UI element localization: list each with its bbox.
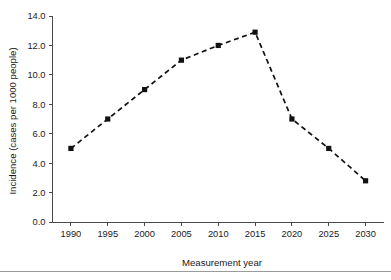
y-tick-label: 6.0 (33, 129, 46, 139)
series-line-incidence (71, 32, 366, 181)
x-tick-label: 2010 (208, 229, 229, 239)
x-tick-label: 2025 (318, 229, 339, 239)
data-series-incidence (68, 30, 368, 184)
data-point-marker (68, 146, 73, 151)
x-tick-label: 1990 (61, 229, 82, 239)
x-tick-label: 1995 (97, 229, 118, 239)
chart-figure: 0.02.04.06.08.010.012.014.0 199019952000… (0, 0, 391, 280)
y-axis-title: Incidence (cases per 1000 people) (7, 47, 18, 194)
data-point-marker (179, 58, 184, 63)
y-tick-label: 2.0 (33, 188, 46, 198)
data-point-marker (252, 30, 257, 35)
x-tick-label: 2015 (245, 229, 266, 239)
data-point-marker (289, 116, 294, 121)
x-tick-label: 2005 (171, 229, 192, 239)
data-point-marker (142, 87, 147, 92)
data-point-marker (105, 116, 110, 121)
x-tick-label: 2030 (355, 229, 376, 239)
data-point-marker (326, 146, 331, 151)
footer-divider (0, 271, 391, 272)
y-axis-tick-labels: 0.02.04.06.08.010.012.014.0 (27, 11, 45, 227)
y-tick-label: 0.0 (33, 217, 46, 227)
y-tick-label: 10.0 (27, 70, 45, 80)
data-point-marker (216, 43, 221, 48)
data-point-marker (363, 178, 368, 183)
x-tick-label: 2000 (134, 229, 155, 239)
tick-marks (49, 16, 366, 226)
x-axis-tick-labels: 199019952000200520102015202020252030 (61, 229, 376, 239)
y-tick-label: 12.0 (27, 41, 45, 51)
y-tick-label: 8.0 (33, 100, 46, 110)
y-tick-label: 14.0 (27, 11, 45, 21)
x-axis-title: Measurement year (182, 257, 263, 268)
incidence-line-chart: 0.02.04.06.08.010.012.014.0 199019952000… (0, 0, 391, 280)
x-tick-label: 2020 (282, 229, 303, 239)
y-tick-label: 4.0 (33, 159, 46, 169)
